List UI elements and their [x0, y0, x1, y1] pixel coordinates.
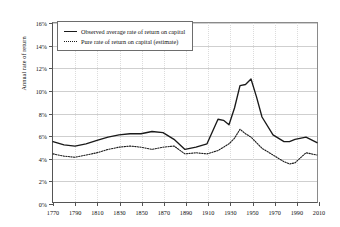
- legend-label-pure: Pure rate of return on capital (estimate…: [81, 38, 178, 45]
- x-tick-label: 1890: [180, 209, 192, 216]
- x-tick-mark: [208, 202, 209, 206]
- y-tick-label: 4%: [39, 155, 47, 162]
- line-observed-average-rate: [53, 79, 317, 149]
- legend-swatch-dotted-icon: [64, 38, 77, 44]
- x-tick-label: 1930: [224, 209, 236, 216]
- y-tick-label: 12%: [36, 65, 47, 72]
- x-tick-label: 1990: [291, 209, 303, 216]
- x-tick-mark: [275, 202, 276, 206]
- x-tick-mark: [186, 202, 187, 206]
- y-tick-label: 0%: [39, 201, 47, 208]
- x-tick-mark: [53, 202, 54, 206]
- chart-legend: Observed average rate of return on capit…: [57, 21, 193, 51]
- x-tick-label: 1970: [268, 209, 280, 216]
- y-tick-label: 10%: [36, 87, 47, 94]
- y-tick-label: 6%: [39, 133, 47, 140]
- legend-label-observed: Observed average rate of return on capit…: [81, 28, 185, 35]
- y-axis-title: Annual rate of return: [20, 0, 27, 129]
- x-tick-mark: [142, 202, 143, 206]
- x-tick-label: 1850: [135, 209, 147, 216]
- x-tick-label: 1870: [158, 209, 170, 216]
- x-tick-mark: [75, 202, 76, 206]
- x-tick-label: 1790: [69, 209, 81, 216]
- line-pure-rate-estimate: [53, 129, 317, 164]
- x-tick-label: 1770: [47, 209, 59, 216]
- x-tick-mark: [319, 202, 320, 206]
- y-tick-label: 8%: [39, 110, 47, 117]
- x-tick-label: 1910: [202, 209, 214, 216]
- x-tick-mark: [164, 202, 165, 206]
- legend-item-observed: Observed average rate of return on capit…: [64, 26, 185, 36]
- x-tick-label: 1810: [91, 209, 103, 216]
- plot-area: 0%2%4%6%8%10%12%14%16% 17701790181018301…: [52, 22, 318, 203]
- y-tick-label: 16%: [36, 20, 47, 27]
- x-tick-label: 2010: [313, 209, 325, 216]
- y-tick-label: 14%: [36, 42, 47, 49]
- x-tick-mark: [230, 202, 231, 206]
- x-tick-label: 1950: [246, 209, 258, 216]
- x-tick-mark: [297, 202, 298, 206]
- legend-item-pure: Pure rate of return on capital (estimate…: [64, 36, 185, 46]
- chart-figure: Annual rate of return 0%2%4%6%8%10%12%14…: [0, 0, 340, 227]
- legend-swatch-solid-icon: [64, 28, 77, 34]
- x-tick-mark: [97, 202, 98, 206]
- x-tick-mark: [253, 202, 254, 206]
- x-tick-label: 1830: [113, 209, 125, 216]
- x-tick-mark: [120, 202, 121, 206]
- y-tick-label: 2%: [39, 178, 47, 185]
